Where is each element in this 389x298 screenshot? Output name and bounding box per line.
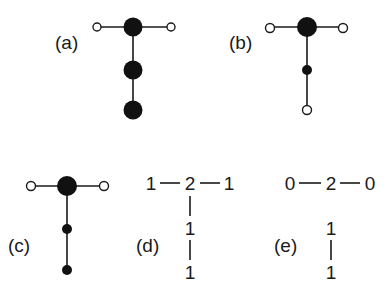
panel-a-label: (a) <box>55 32 78 53</box>
small-node-bottom <box>62 265 72 275</box>
small-node-middle <box>62 224 72 234</box>
open-node-left <box>93 23 101 31</box>
value-center: 2 <box>326 173 337 194</box>
value-left: 0 <box>285 173 296 194</box>
value-right: 0 <box>365 173 376 194</box>
panel-c-label: (c) <box>8 235 30 256</box>
value-center: 2 <box>185 173 196 194</box>
open-node-right <box>339 24 348 33</box>
small-node-middle <box>302 65 312 75</box>
value-column-1: 1 <box>185 218 196 239</box>
figure-canvas: (a) (b) (c) (d) 1 2 1 <box>0 0 389 298</box>
large-node-bottom <box>124 101 143 120</box>
open-node-right <box>100 182 109 191</box>
panel-b: (b) <box>229 17 348 115</box>
large-node-top <box>124 18 143 37</box>
large-node-top <box>297 17 317 37</box>
panel-e-label: (e) <box>274 235 297 256</box>
open-node-left <box>266 24 275 33</box>
panel-d: (d) 1 2 1 1 1 <box>136 173 234 283</box>
open-node-right <box>167 23 175 31</box>
panel-c: (c) <box>8 176 109 275</box>
panel-a: (a) <box>55 18 175 120</box>
open-node-left <box>27 182 36 191</box>
value-column-2: 1 <box>185 262 196 283</box>
open-node-bottom <box>303 106 312 115</box>
large-node-middle <box>124 61 143 80</box>
panel-d-label: (d) <box>136 235 159 256</box>
large-node-top <box>57 176 77 196</box>
panel-b-label: (b) <box>229 32 252 53</box>
value-left: 1 <box>146 173 157 194</box>
value-column-1: 1 <box>326 218 337 239</box>
value-right: 1 <box>224 173 235 194</box>
value-column-2: 1 <box>326 262 337 283</box>
panel-e: (e) 0 2 0 1 1 <box>274 173 375 283</box>
